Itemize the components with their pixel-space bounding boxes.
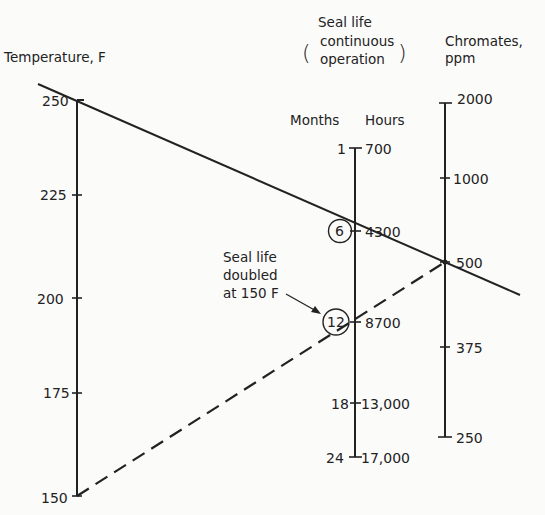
seal-life-months-header: Months: [290, 112, 339, 128]
seal-life-hours-header: Hours: [365, 112, 405, 128]
seal-life-hours-17000: 17,000: [361, 450, 410, 466]
temperature-tick-225: 225: [40, 187, 67, 203]
seal-life-months-18: 18: [331, 396, 349, 412]
chromates-tick-375: 375: [456, 340, 483, 356]
temperature-axis-title: Temperature, F: [3, 49, 106, 65]
seal-life-hours-8700: 8700: [365, 315, 401, 331]
nomograph-diagram: Temperature, F 250 225 200 175 150 Seal …: [0, 0, 545, 515]
seal-life-months-1: 1: [337, 141, 346, 157]
chromates-tick-2000: 2000: [457, 91, 493, 107]
temperature-tick-175: 175: [43, 385, 70, 401]
annotation-seal-life-doubled: Seal life doubled at 150 F: [223, 249, 321, 314]
chromates-tick-250: 250: [456, 430, 483, 446]
seal-life-months-6: 6: [335, 223, 344, 239]
solid-isopleth-line: [38, 84, 520, 295]
seal-life-hours-700: 700: [365, 141, 392, 157]
chromates-title-line2: ppm: [445, 50, 475, 66]
chromates-tick-1000: 1000: [453, 171, 489, 187]
seal-life-hours-13000: 13,000: [361, 396, 410, 412]
annotation-line2: doubled: [223, 267, 278, 283]
seal-life-title-line1: Seal life: [318, 14, 372, 30]
seal-life-title-line2: continuous: [320, 33, 394, 49]
seal-life-paren-left: (: [302, 40, 311, 65]
seal-life-hours-4300: 4300: [365, 224, 401, 240]
seal-life-paren-right: ): [398, 40, 407, 65]
annotation-line3: at 150 F: [223, 285, 279, 301]
seal-life-months-24: 24: [326, 450, 344, 466]
temperature-axis: Temperature, F 250 225 200 175 150: [3, 49, 106, 506]
arrowhead-icon: [311, 306, 321, 314]
seal-life-title-line3: operation: [320, 51, 385, 67]
temperature-tick-150: 150: [41, 490, 68, 506]
chromates-axis: Chromates, ppm 2000 1000 500 375 250: [438, 33, 523, 446]
temperature-tick-200: 200: [37, 291, 64, 307]
intersection-point: [443, 260, 448, 265]
annotation-line1: Seal life: [223, 249, 277, 265]
chromates-title-line1: Chromates,: [445, 33, 523, 49]
